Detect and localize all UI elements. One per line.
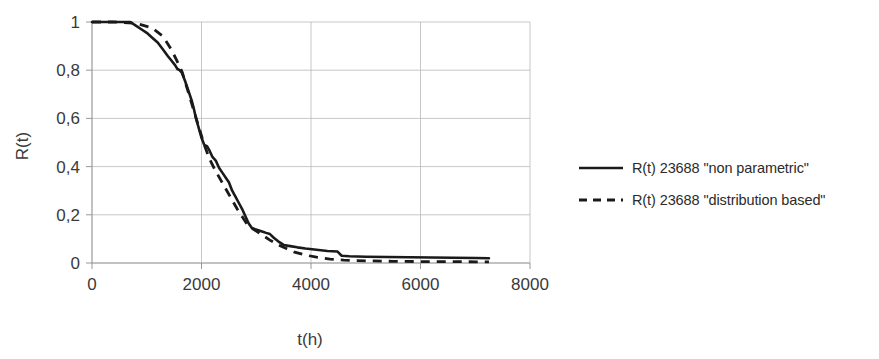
x-tick-label: 0 (87, 275, 96, 294)
x-axis-title: t(h) (297, 330, 323, 349)
figure-container: 02000400060008000 00,20,40,60,81 t(h) R(… (0, 0, 879, 359)
legend-label-non-parametric: R(t) 23688 "non parametric" (632, 160, 809, 176)
y-tick-label: 0,6 (56, 109, 80, 128)
reliability-line-chart: 02000400060008000 00,20,40,60,81 t(h) R(… (0, 0, 560, 359)
x-axis-tick-labels: 02000400060008000 (87, 275, 549, 294)
chart-legend: R(t) 23688 "non parametric" R(t) 23688 "… (578, 152, 878, 216)
y-tick-label: 0,2 (56, 206, 80, 225)
legend-label-distribution-based: R(t) 23688 "distribution based" (632, 192, 825, 208)
y-axis-tick-labels: 00,20,40,60,81 (56, 13, 80, 273)
y-axis-title: R(t) (13, 132, 32, 160)
x-tick-label: 8000 (511, 275, 549, 294)
y-tick-label: 1 (71, 13, 80, 32)
legend-item-distribution-based[interactable]: R(t) 23688 "distribution based" (578, 184, 878, 216)
chart-plot-area: 02000400060008000 00,20,40,60,81 t(h) R(… (0, 0, 560, 359)
chart-gridlines (92, 22, 530, 263)
legend-item-non-parametric[interactable]: R(t) 23688 "non parametric" (578, 152, 878, 184)
legend-swatch-dashed-icon (578, 193, 624, 207)
y-tick-label: 0,4 (56, 158, 80, 177)
series-distribution-based (92, 22, 489, 262)
legend-swatch-solid-icon (578, 161, 624, 175)
y-tick-label: 0 (71, 254, 80, 273)
series-non-parametric (92, 22, 489, 258)
x-tick-label: 6000 (402, 275, 440, 294)
x-tick-label: 4000 (292, 275, 330, 294)
x-tick-label: 2000 (183, 275, 221, 294)
chart-tickmarks (86, 22, 530, 269)
y-tick-label: 0,8 (56, 61, 80, 80)
